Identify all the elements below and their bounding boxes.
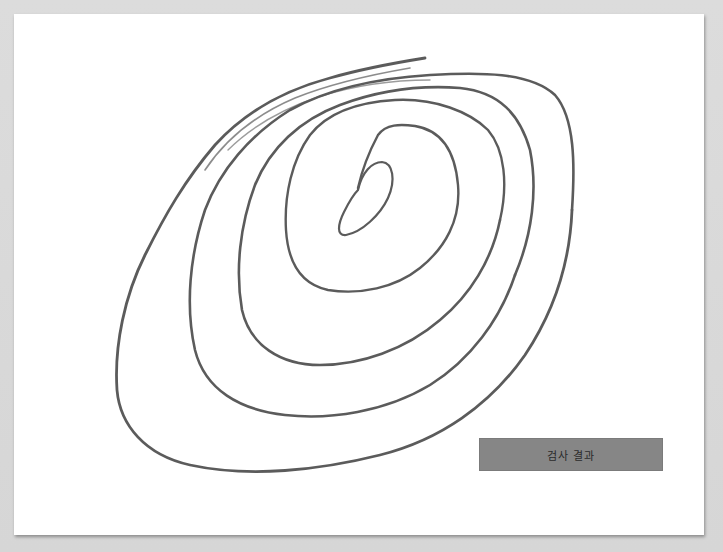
- test-result-button[interactable]: 검사 결과: [479, 438, 663, 471]
- test-result-label: 검사 결과: [547, 447, 596, 463]
